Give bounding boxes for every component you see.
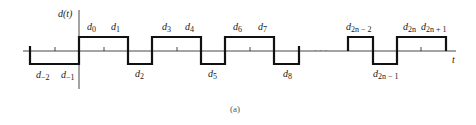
data-waveform-tail [348, 37, 446, 64]
label-d-4: d4 [185, 21, 194, 34]
label-d-0: d0 [87, 21, 96, 34]
label-d-2: d2 [135, 68, 144, 81]
label-d-2n-minus-1: d2n − 1 [373, 68, 399, 81]
label-d-2n-minus-2: d2n − 2 [346, 21, 372, 34]
label-d-5: d5 [208, 68, 217, 81]
label-d-7: d7 [258, 21, 267, 34]
label-d-2n: d2n [403, 21, 416, 34]
ellipsis: · · · [314, 45, 328, 55]
label-d-8: d8 [283, 68, 292, 81]
label-d-2n-plus-1: d2n + 1 [421, 21, 447, 34]
label-d-minus-2: d−2 [36, 69, 50, 82]
label-d-6: d6 [233, 21, 242, 34]
y-axis-label: d(t) [58, 8, 73, 20]
data-waveform [30, 37, 299, 64]
label-d-minus-1: d−1 [61, 69, 75, 82]
label-d-3: d3 [162, 21, 171, 34]
x-axis-label: t [452, 54, 455, 65]
figure-caption: (a) [230, 104, 240, 114]
waveform-diagram: · · · d(t) t d−2 d−1 d2 d5 d8 d2n − 1 d0… [0, 0, 476, 125]
label-d-1: d1 [111, 21, 120, 34]
